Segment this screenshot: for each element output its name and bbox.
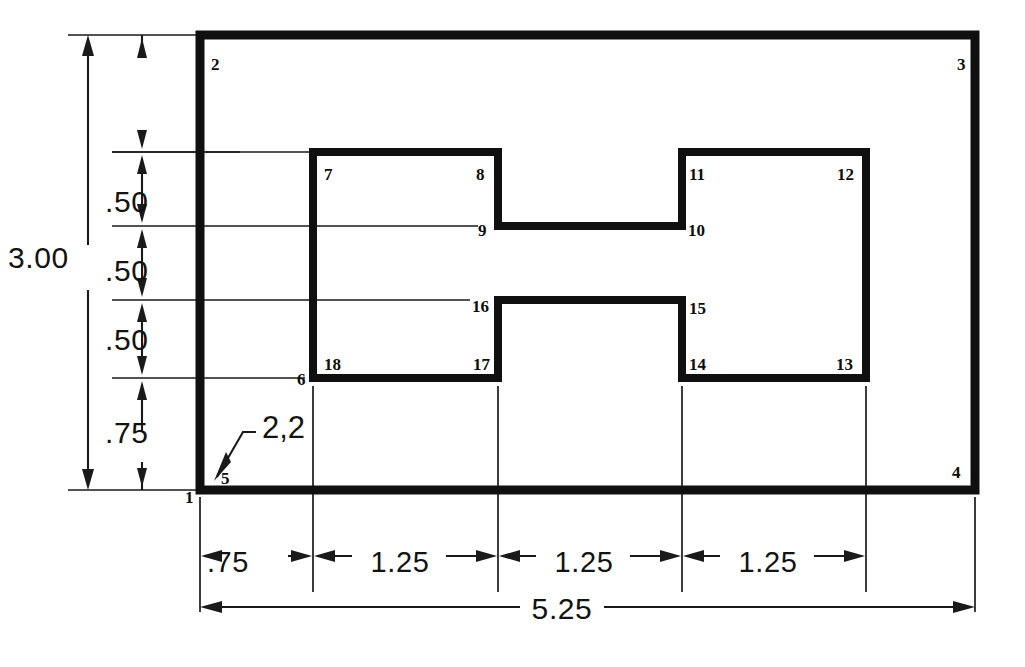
hdim-arrow-866-icon <box>844 550 865 562</box>
vertex-label-18: 18 <box>324 355 341 374</box>
vertex-label-1: 1 <box>185 488 194 507</box>
chain-arrow-top-icon <box>137 38 147 58</box>
drawing-sheet: 1 2 3 4 5 6 7 8 9 10 11 12 13 14 15 16 1… <box>0 0 1025 667</box>
dimension-v-50-a: .50 <box>105 185 149 218</box>
dimension-h-75: .75 <box>207 546 249 578</box>
dimension-v-50-b: .50 <box>105 254 149 287</box>
left-pocket-profile <box>313 152 682 378</box>
chain-arrow-152-down-icon <box>137 155 147 174</box>
horizontal-dimension-chain: .75 1.25 1.25 1.25 <box>201 546 865 578</box>
vertex-label-8: 8 <box>476 165 485 184</box>
vertical-overall-dimension: 3.00 <box>8 35 94 490</box>
arrowhead-up-icon <box>82 35 94 56</box>
vertex-label-15: 15 <box>689 299 706 318</box>
chain-arrow-378-up-icon <box>137 356 147 375</box>
vertex-label-5: 5 <box>221 469 230 488</box>
dimension-h-125-a: 1.25 <box>371 546 430 578</box>
vertex-label-3: 3 <box>957 55 966 74</box>
right-pocket-profile <box>682 152 866 378</box>
chain-arrow-152-up-icon <box>137 130 147 149</box>
dimension-h-125-c: 1.25 <box>739 546 798 578</box>
vertex-label-12: 12 <box>837 165 854 184</box>
vertex-label-16: 16 <box>472 297 489 316</box>
hdim-arrow-498r-icon <box>499 550 520 562</box>
vertex-label-2: 2 <box>211 55 220 74</box>
leader-note-label: 2,2 <box>262 410 305 445</box>
vertical-dimension-chain: .50 .50 .50 .75 <box>105 35 149 490</box>
dimension-v-50-c: .50 <box>105 323 149 356</box>
vertex-label-6: 6 <box>297 370 306 389</box>
dimension-overall-height: 3.00 <box>8 241 69 274</box>
chain-arrow-300-down-icon <box>137 303 147 322</box>
horizontal-overall-dimension: 5.25 <box>200 592 975 625</box>
hdim-arrow-313r-icon <box>314 550 335 562</box>
arrowhead-right-icon <box>953 601 975 613</box>
dimension-v-75: .75 <box>105 416 149 449</box>
vertex-label-7: 7 <box>324 165 333 184</box>
chain-arrow-378-down-icon <box>137 381 147 400</box>
vertex-label-11: 11 <box>689 165 705 184</box>
dimension-overall-width: 5.25 <box>532 592 593 625</box>
chain-arrow-226-down-icon <box>137 229 147 248</box>
vertex-label-13: 13 <box>836 355 853 374</box>
vertex-label-10: 10 <box>688 221 705 240</box>
hdim-arrow-313l-icon <box>291 550 312 562</box>
vertex-label-9: 9 <box>478 221 487 240</box>
vertex-label-4: 4 <box>952 463 961 482</box>
hdim-arrow-498l-icon <box>476 550 497 562</box>
dimension-h-125-b: 1.25 <box>555 546 614 578</box>
arrowhead-down-icon <box>82 469 94 490</box>
engineering-drawing-canvas: 1 2 3 4 5 6 7 8 9 10 11 12 13 14 15 16 1… <box>0 0 1025 667</box>
vertex-label-14: 14 <box>689 355 707 374</box>
vertex-label-17: 17 <box>473 355 491 374</box>
arrowhead-left-icon <box>200 601 222 613</box>
hdim-arrow-682r-icon <box>683 550 704 562</box>
hdim-arrow-682l-icon <box>660 550 681 562</box>
chain-arrow-bottom-icon <box>137 468 147 487</box>
